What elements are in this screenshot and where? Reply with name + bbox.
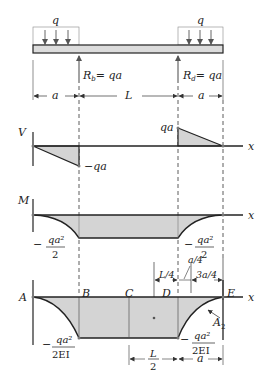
svg-text:L: L xyxy=(149,348,157,359)
left-distributed-load: q xyxy=(33,14,79,45)
curvature-diagram: x A B C D E A 2 − qa² 2EI − qa² 2EI xyxy=(18,280,255,360)
curvature-x-label: x xyxy=(248,291,255,304)
svg-text:−: − xyxy=(42,338,51,351)
shear-x-label: x xyxy=(248,140,255,153)
moment-x-label: x xyxy=(248,209,255,222)
shear-diagram: V x −qa qa xyxy=(18,121,255,173)
centroid-dot xyxy=(153,317,156,320)
right-distributed-load: q xyxy=(178,14,223,45)
svg-text:−: − xyxy=(184,238,193,251)
right-load-label: q xyxy=(197,14,204,27)
svg-text:qa²: qa² xyxy=(194,330,210,341)
reaction-b-label: Rb= qa xyxy=(82,69,122,83)
dim-3a-over-4: 3a/4 xyxy=(196,269,217,280)
dim-L-over-4: L/4 xyxy=(158,269,175,280)
svg-text:−: − xyxy=(33,238,42,251)
shear-right-region xyxy=(178,128,223,146)
moment-axis-label: M xyxy=(17,194,30,207)
shear-pos-value: qa xyxy=(160,121,174,134)
left-load-label: q xyxy=(52,14,59,27)
beam xyxy=(33,45,223,53)
point-A-label: A xyxy=(18,291,27,304)
svg-text:qa²: qa² xyxy=(197,234,213,245)
dim-a-over-4: a/4 xyxy=(188,254,203,265)
point-C-label: C xyxy=(125,287,134,300)
svg-text:2EI: 2EI xyxy=(52,349,70,360)
dim-right-a: a xyxy=(198,89,205,102)
moment-left-value: − qa² 2 xyxy=(33,234,65,260)
svg-text:qa²: qa² xyxy=(48,234,64,245)
shear-left-region xyxy=(33,146,79,166)
svg-text:2: 2 xyxy=(221,323,225,331)
dim-bottom-a: a xyxy=(197,352,204,365)
beam-group: q q Rb= qa Rd= qa xyxy=(33,14,223,100)
shear-neg-value: −qa xyxy=(84,160,107,173)
dim-L-over-2: L 2 xyxy=(148,348,159,372)
dim-span-L: L xyxy=(124,89,132,102)
beam-diagram-figure: q q Rb= qa Rd= qa a L a xyxy=(0,0,269,391)
svg-text:2: 2 xyxy=(52,249,58,260)
point-E-label: E xyxy=(226,287,235,300)
svg-text:2: 2 xyxy=(150,361,156,372)
dim-left-a: a xyxy=(52,89,59,102)
span-dimensions: a L a xyxy=(34,89,222,102)
point-D-label: D xyxy=(161,287,171,300)
point-B-label: B xyxy=(81,287,90,300)
curvature-left-value: − qa² 2EI xyxy=(42,334,75,360)
svg-text:A: A xyxy=(212,316,221,329)
svg-text:qa²: qa² xyxy=(56,334,72,345)
svg-text:−: − xyxy=(180,333,189,346)
moment-diagram: M x − qa² 2 − qa² 2 xyxy=(17,194,255,260)
shear-axis-label: V xyxy=(18,126,27,139)
reaction-d-label: Rd= qa xyxy=(182,69,222,83)
